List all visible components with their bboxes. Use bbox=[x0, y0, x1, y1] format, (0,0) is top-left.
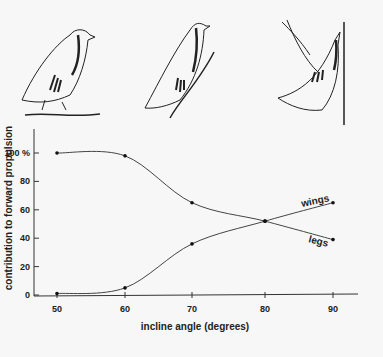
x-tick-label: 50 bbox=[52, 304, 62, 314]
y-tick-label: 100 % bbox=[4, 148, 30, 158]
y-tick-label: 60 bbox=[20, 205, 30, 215]
legs-line bbox=[57, 151, 333, 239]
x-axis-label: incline angle (degrees) bbox=[141, 321, 249, 332]
wings-point bbox=[55, 292, 59, 296]
bird-standing-illustration bbox=[22, 30, 100, 116]
bird-climbing-illustration bbox=[145, 23, 214, 118]
legs-label: legs bbox=[308, 233, 331, 249]
data-points bbox=[55, 151, 335, 295]
x-tick-label: 90 bbox=[328, 304, 338, 314]
wings-line bbox=[57, 203, 333, 294]
y-tick-label: 80 bbox=[20, 176, 30, 186]
x-tick-label: 80 bbox=[260, 304, 270, 314]
wings-point bbox=[263, 219, 267, 223]
legs-point bbox=[55, 151, 59, 155]
legs-point bbox=[331, 238, 335, 242]
wings-point bbox=[123, 286, 127, 290]
legs-point bbox=[190, 201, 194, 205]
chart: contribution to forward propulsion 02040… bbox=[0, 0, 383, 357]
x-tick-label: 70 bbox=[187, 304, 197, 314]
x-axis bbox=[34, 294, 358, 296]
y-tick-label: 0 bbox=[25, 290, 30, 300]
wings-point bbox=[331, 201, 335, 205]
legs-point bbox=[123, 154, 127, 158]
y-tick-label: 20 bbox=[20, 262, 30, 272]
wings-label: wings bbox=[299, 192, 330, 209]
wings-point bbox=[190, 242, 194, 246]
y-tick-label: 40 bbox=[20, 233, 30, 243]
x-tick-label: 60 bbox=[120, 304, 130, 314]
bird-flapping-illustration bbox=[278, 20, 344, 125]
